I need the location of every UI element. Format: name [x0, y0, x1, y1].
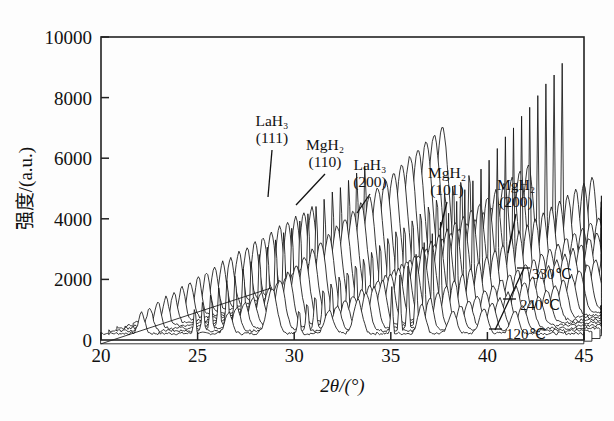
temperature-label: 120℃: [506, 326, 546, 342]
peak-leader-line: [296, 174, 325, 205]
peak-phase-label: MgH₂: [306, 136, 344, 153]
y-tick-label: 8000: [54, 88, 92, 109]
x-tick-label: 40: [478, 345, 497, 366]
peak-label-group: LaH₃(111): [256, 112, 289, 197]
peak-phase-label: MgH₂: [428, 164, 466, 181]
temperature-label: 330℃: [532, 266, 572, 282]
x-tick-label: 35: [381, 345, 400, 366]
peak-phase-label: LaH₃: [354, 156, 387, 173]
peak-phase-label: LaH₃: [256, 112, 289, 129]
y-tick-label: 0: [83, 330, 93, 351]
xrd-chart-svg: 20253035404502000400060008000100002θ/(°)…: [0, 0, 614, 421]
temperature-label: 240℃: [520, 297, 560, 313]
x-tick-label: 45: [575, 345, 594, 366]
y-tick-label: 6000: [54, 148, 92, 169]
x-tick-label: 30: [285, 345, 304, 366]
peak-plane-label: (200): [499, 193, 533, 211]
x-tick-label: 20: [92, 345, 111, 366]
y-tick-label: 2000: [54, 269, 92, 290]
x-axis-title: 2θ/(°): [320, 375, 364, 397]
peak-plane-label: (200): [353, 173, 387, 191]
x-tick-label: 25: [188, 345, 207, 366]
peak-leader-line: [268, 150, 272, 197]
y-axis-title: 强度/(a.u.): [15, 147, 37, 230]
peak-plane-label: (110): [309, 153, 342, 171]
y-tick-label: 10000: [45, 27, 93, 48]
peak-phase-label: MgH₂: [497, 176, 535, 193]
peak-plane-label: (101): [430, 181, 464, 199]
peak-label-group: MgH₂(110): [296, 136, 344, 205]
peak-plane-label: (111): [256, 129, 288, 147]
xrd-figure: 20253035404502000400060008000100002θ/(°)…: [0, 0, 614, 421]
y-tick-label: 4000: [54, 209, 92, 230]
